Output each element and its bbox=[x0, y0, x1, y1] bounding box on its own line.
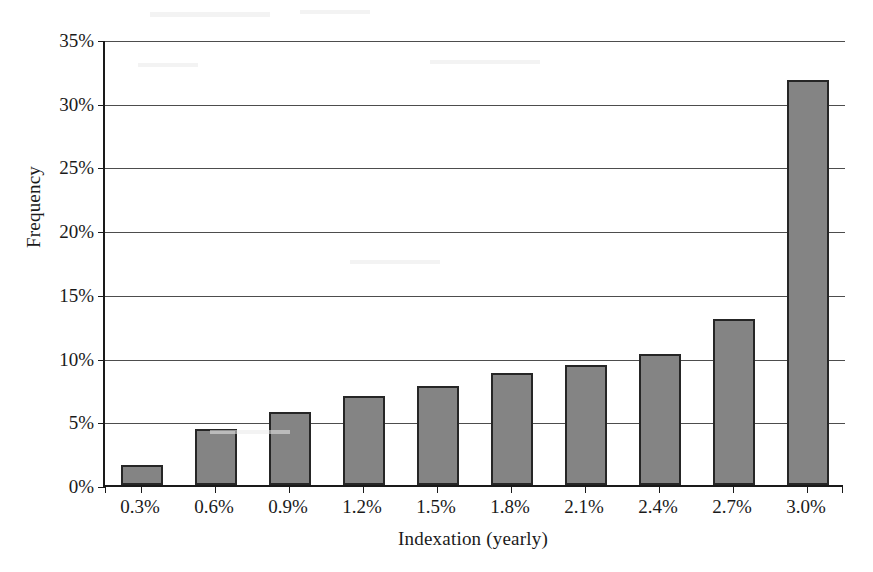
scan-artifact bbox=[150, 12, 270, 17]
x-axis-tick-label: 0.6% bbox=[177, 496, 251, 518]
bar-slot bbox=[475, 39, 549, 485]
bar-slot bbox=[623, 39, 697, 485]
y-axis-tick-label: 10% bbox=[59, 349, 94, 371]
x-axis-tick-mark bbox=[363, 485, 364, 493]
y-axis-tick-mark bbox=[98, 423, 105, 424]
x-axis-tick-labels: 0.3%0.6%0.9%1.2%1.5%1.8%2.1%2.4%2.7%3.0% bbox=[103, 496, 843, 518]
x-axis-tick-edge-right bbox=[842, 485, 843, 493]
scan-artifact bbox=[210, 430, 290, 434]
y-axis-tick-mark bbox=[98, 41, 105, 42]
x-axis-title: Indexation (yearly) bbox=[103, 528, 843, 550]
x-axis-tick-label: 3.0% bbox=[769, 496, 843, 518]
bar[interactable] bbox=[343, 396, 385, 485]
x-axis-tick-mark bbox=[733, 485, 734, 493]
bar[interactable] bbox=[787, 80, 829, 485]
y-axis-tick-mark bbox=[98, 487, 105, 488]
x-axis-tick-mark bbox=[437, 485, 438, 493]
bar[interactable] bbox=[195, 429, 237, 485]
y-axis-tick-mark bbox=[98, 232, 105, 233]
x-axis-tick-edge-left bbox=[105, 485, 106, 493]
x-axis-tick-mark bbox=[215, 485, 216, 493]
x-axis-tick-mark bbox=[511, 485, 512, 493]
y-axis-tick-mark bbox=[98, 360, 105, 361]
bar[interactable] bbox=[269, 412, 311, 485]
y-axis-tick-label: 15% bbox=[59, 285, 94, 307]
y-axis-tick-mark bbox=[98, 168, 105, 169]
bar[interactable] bbox=[639, 354, 681, 485]
x-axis-tick-mark bbox=[807, 485, 808, 493]
y-axis-tick-label: 20% bbox=[59, 221, 94, 243]
bar[interactable] bbox=[713, 319, 755, 485]
bar-chart: Frequency 0%5%10%15%20%25%30%35% 0.3%0.6… bbox=[0, 0, 873, 572]
y-axis-tick-label: 5% bbox=[69, 412, 94, 434]
y-axis-tick-mark bbox=[98, 296, 105, 297]
bar-slot bbox=[697, 39, 771, 485]
x-axis-tick-label: 1.8% bbox=[473, 496, 547, 518]
x-axis-tick-label: 0.3% bbox=[103, 496, 177, 518]
bar[interactable] bbox=[491, 373, 533, 485]
scan-artifact bbox=[430, 60, 540, 64]
bar[interactable] bbox=[565, 365, 607, 485]
x-axis-tick-label: 2.1% bbox=[547, 496, 621, 518]
x-axis-tick-mark bbox=[659, 485, 660, 493]
scan-artifact bbox=[300, 10, 370, 14]
bar-slot bbox=[549, 39, 623, 485]
y-axis-tick-label: 0% bbox=[69, 476, 94, 498]
plot-area: 0%5%10%15%20%25%30%35% bbox=[103, 41, 843, 487]
x-axis-tick-label: 1.5% bbox=[399, 496, 473, 518]
bar[interactable] bbox=[417, 386, 459, 485]
bar-slot bbox=[105, 39, 179, 485]
y-axis-tick-label: 35% bbox=[59, 30, 94, 52]
scan-artifact bbox=[138, 63, 198, 67]
y-axis-tick-label: 25% bbox=[59, 157, 94, 179]
bars-container bbox=[105, 39, 845, 485]
scan-artifact bbox=[350, 260, 440, 264]
x-axis-tick-mark bbox=[289, 485, 290, 493]
x-axis-tick-mark bbox=[585, 485, 586, 493]
x-axis-tick-label: 1.2% bbox=[325, 496, 399, 518]
y-axis-title: Frequency bbox=[23, 127, 45, 287]
x-axis-tick-label: 0.9% bbox=[251, 496, 325, 518]
bar-slot bbox=[253, 39, 327, 485]
x-axis-tick-label: 2.4% bbox=[621, 496, 695, 518]
x-axis-tick-mark bbox=[141, 485, 142, 493]
x-axis-tick-label: 2.7% bbox=[695, 496, 769, 518]
bar-slot bbox=[771, 39, 845, 485]
y-axis-tick-mark bbox=[98, 105, 105, 106]
y-axis-tick-label: 30% bbox=[59, 94, 94, 116]
bar[interactable] bbox=[121, 465, 163, 485]
bar-slot bbox=[179, 39, 253, 485]
